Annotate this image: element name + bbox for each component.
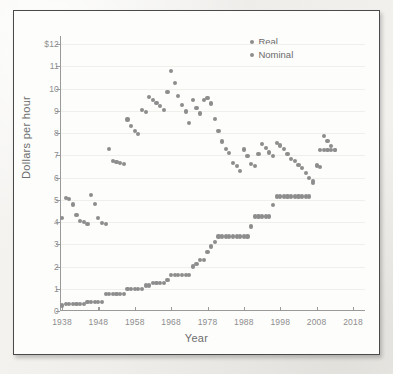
data-point-real [256, 152, 260, 156]
gridline [61, 111, 365, 112]
x-tick [171, 307, 172, 311]
data-point-real [271, 154, 275, 158]
data-point-nominal [122, 292, 126, 296]
data-point-real [85, 222, 89, 226]
x-axis-line [60, 310, 365, 311]
x-tick-label: 1938 [42, 317, 82, 327]
y-tick-label: 6 [19, 173, 59, 183]
data-point-real [162, 108, 166, 112]
data-point-nominal [249, 224, 253, 228]
gridline [61, 267, 365, 268]
y-tick-label: 4 [19, 217, 59, 227]
gridline [61, 89, 365, 90]
data-point-nominal [187, 273, 191, 277]
x-tick-label: 1988 [224, 317, 264, 327]
x-tick [98, 307, 99, 311]
data-point-real [220, 139, 224, 143]
gridline [61, 44, 365, 45]
data-point-nominal [311, 179, 315, 183]
data-point-real [209, 101, 213, 105]
data-point-real [235, 164, 239, 168]
data-point-real [104, 222, 108, 226]
y-tick-label: 1 [19, 284, 59, 294]
y-tick-label: 11 [19, 61, 59, 71]
y-axis-line [60, 36, 61, 311]
data-point-real [173, 81, 177, 85]
x-tick [353, 307, 354, 311]
x-tick-label: 2018 [333, 317, 373, 327]
data-point-real [304, 171, 308, 175]
data-point-real [194, 106, 198, 110]
x-tick-label: 1958 [115, 317, 155, 327]
x-tick [317, 307, 318, 311]
data-point-real [122, 162, 126, 166]
data-point-nominal [213, 240, 217, 244]
data-point-real [96, 216, 100, 220]
gridline [61, 66, 365, 67]
data-point-real [184, 109, 188, 113]
data-point-real [136, 132, 140, 136]
data-point-real [176, 94, 180, 98]
data-point-real [125, 117, 129, 121]
data-point-real [158, 104, 162, 108]
gridline [61, 200, 365, 201]
y-tick-label: 10 [19, 84, 59, 94]
y-tick-label: 2 [19, 262, 59, 272]
data-point-real [300, 166, 304, 170]
x-tick [62, 307, 63, 311]
data-point-nominal [271, 203, 275, 207]
data-point-real [93, 202, 97, 206]
data-point-nominal [307, 194, 311, 198]
data-point-real [74, 213, 78, 217]
y-tick-label: 7 [19, 150, 59, 160]
x-tick-label: 1978 [188, 317, 228, 327]
data-point-real [216, 129, 220, 133]
data-point-real [205, 96, 209, 100]
gridline [61, 133, 365, 134]
plot-area: 01234567891011$12 1938194819581968197819… [60, 36, 365, 319]
data-point-real [242, 147, 246, 151]
data-point-real [169, 69, 173, 73]
data-point-nominal [165, 278, 169, 282]
gridline [61, 289, 365, 290]
data-point-real [60, 216, 64, 220]
y-tick-label: 9 [19, 106, 59, 116]
x-axis-title: Year [14, 332, 379, 344]
x-tick [135, 307, 136, 311]
y-tick-label: 0 [19, 306, 59, 316]
x-tick [280, 307, 281, 311]
x-tick-label: 2008 [297, 317, 337, 327]
data-point-real [107, 147, 111, 151]
data-point-real [191, 98, 195, 102]
y-tick-label: 5 [19, 195, 59, 205]
data-point-real [144, 110, 148, 114]
screenshot-page: Dollars per hour Year Real Nominal 01234… [0, 0, 393, 374]
data-point-nominal [202, 258, 206, 262]
data-point-real [318, 165, 322, 169]
x-tick [244, 307, 245, 311]
data-point-real [89, 193, 93, 197]
data-point-real [260, 142, 264, 146]
data-point-nominal [333, 148, 337, 152]
gridline [61, 155, 365, 156]
x-tick-label: 1998 [260, 317, 300, 327]
data-point-nominal [267, 214, 271, 218]
chart-figure-card: Dollars per hour Year Real Nominal 01234… [13, 10, 380, 355]
data-point-real [325, 139, 329, 143]
gridline [61, 178, 365, 179]
x-tick-label: 1948 [78, 317, 118, 327]
data-point-nominal [205, 250, 209, 254]
x-tick [208, 307, 209, 311]
y-tick-label: 8 [19, 128, 59, 138]
data-point-real [187, 121, 191, 125]
data-point-real [213, 117, 217, 121]
y-tick-label: 3 [19, 239, 59, 249]
data-point-nominal [245, 234, 249, 238]
data-point-real [180, 103, 184, 107]
data-point-real [253, 164, 257, 168]
data-point-real [165, 90, 169, 94]
data-point-nominal [209, 244, 213, 248]
data-point-real [245, 154, 249, 158]
data-point-real [129, 124, 133, 128]
data-point-real [322, 134, 326, 138]
